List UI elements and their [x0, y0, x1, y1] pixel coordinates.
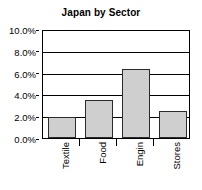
x-axis-label-stores: Stores: [153, 139, 190, 190]
x-axis-tick-label: Engin: [135, 142, 145, 166]
y-axis-tick-mark: [36, 139, 39, 140]
bar: [48, 117, 76, 138]
gridline: [43, 52, 189, 53]
x-axis-label-food: Food: [79, 139, 116, 190]
y-axis-tick-mark: [36, 30, 39, 31]
x-axis-tick-label: Stores: [172, 142, 182, 169]
bar-chart: Japan by Sector 10.0%8.0%6.0%4.0%2.0%0.0…: [0, 0, 202, 190]
y-axis-tick-mark: [36, 95, 39, 96]
y-axis-tick-label: 4.0%: [14, 90, 36, 101]
y-axis-tick-mark: [36, 51, 39, 52]
bar: [159, 111, 187, 138]
x-axis-tick-label: Textile: [61, 142, 71, 169]
gridline: [43, 95, 189, 96]
y-axis-tick-label: 0.0%: [14, 134, 36, 145]
plot-area: [42, 30, 190, 139]
x-axis-tick-label: Food: [98, 142, 108, 164]
y-axis: 10.0%8.0%6.0%4.0%2.0%0.0%: [0, 30, 39, 139]
y-axis-tick-label: 6.0%: [14, 68, 36, 79]
y-axis-tick-label: 2.0%: [14, 112, 36, 123]
bar: [122, 69, 150, 138]
x-axis-label-engin: Engin: [116, 139, 153, 190]
y-axis-tick-label: 10.0%: [9, 25, 36, 36]
x-axis: TextileFoodEnginStores: [42, 139, 190, 190]
y-axis-tick-label: 8.0%: [14, 46, 36, 57]
y-axis-tick-mark: [36, 117, 39, 118]
bar: [85, 100, 113, 138]
chart-title: Japan by Sector: [0, 7, 202, 18]
x-axis-label-textile: Textile: [42, 139, 79, 190]
gridline: [43, 74, 189, 75]
y-axis-tick-mark: [36, 73, 39, 74]
